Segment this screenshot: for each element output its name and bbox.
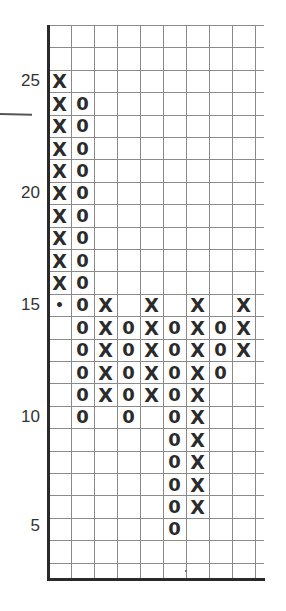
- o-mark: 0: [71, 406, 94, 428]
- y-axis: [47, 25, 50, 581]
- x-mark: X: [94, 339, 117, 361]
- o-mark: 0: [209, 339, 232, 361]
- o-mark: 0: [71, 294, 94, 316]
- x-mark: X: [140, 362, 163, 384]
- grid-hline: [48, 473, 264, 474]
- o-mark: 0: [71, 250, 94, 272]
- o-mark: 0: [163, 384, 186, 406]
- x-mark: X: [186, 317, 209, 339]
- o-mark: 0: [71, 182, 94, 204]
- x-mark: X: [186, 406, 209, 428]
- x-mark: X: [232, 339, 255, 361]
- o-mark: 0: [117, 362, 140, 384]
- o-mark: 0: [71, 138, 94, 160]
- grid-hline: [48, 47, 264, 48]
- x-mark: X: [186, 451, 209, 473]
- x-mark: X: [94, 384, 117, 406]
- x-mark: X: [48, 115, 71, 137]
- x-mark: X: [232, 294, 255, 316]
- o-mark: 0: [117, 317, 140, 339]
- x-mark: X: [48, 205, 71, 227]
- o-mark: 0: [71, 362, 94, 384]
- x-mark: X: [94, 294, 117, 316]
- x-axis: [47, 578, 265, 581]
- x-mark: X: [48, 272, 71, 294]
- grid-hline: [48, 428, 264, 429]
- o-mark: 0: [163, 317, 186, 339]
- o-mark: 0: [163, 518, 186, 540]
- y-label-10: 10: [0, 407, 40, 427]
- o-mark: 0: [163, 496, 186, 518]
- y-label-15: 15: [0, 295, 40, 315]
- o-mark: 0: [209, 362, 232, 384]
- o-mark: 0: [163, 339, 186, 361]
- speck-mark: [185, 570, 187, 572]
- y-label-5: 5: [0, 516, 40, 536]
- o-mark: 0: [117, 384, 140, 406]
- x-mark: X: [186, 339, 209, 361]
- o-mark: 0: [163, 406, 186, 428]
- grid-hline: [48, 495, 264, 496]
- x-mark: X: [186, 384, 209, 406]
- grid-hline: [48, 518, 264, 519]
- o-mark: 0: [71, 205, 94, 227]
- x-mark: X: [140, 317, 163, 339]
- x-mark: X: [186, 474, 209, 496]
- o-mark: 0: [71, 227, 94, 249]
- y-label-25: 25: [0, 71, 40, 91]
- o-mark: 0: [71, 115, 94, 137]
- x-mark: X: [140, 339, 163, 361]
- x-mark: X: [186, 496, 209, 518]
- x-mark: X: [48, 93, 71, 115]
- o-mark: 0: [71, 160, 94, 182]
- y-label-20: 20: [0, 183, 40, 203]
- o-mark: 0: [71, 317, 94, 339]
- x-mark: X: [140, 294, 163, 316]
- o-mark: 0: [71, 93, 94, 115]
- o-mark: 0: [71, 339, 94, 361]
- x-mark: X: [140, 384, 163, 406]
- grid-hline: [48, 540, 264, 541]
- x-mark: X: [48, 250, 71, 272]
- x-mark: X: [94, 362, 117, 384]
- o-mark: 0: [163, 451, 186, 473]
- x-mark: X: [48, 138, 71, 160]
- x-mark: X: [94, 317, 117, 339]
- x-mark: X: [232, 317, 255, 339]
- grid-hline: [48, 451, 264, 452]
- x-mark: X: [48, 160, 71, 182]
- x-mark: X: [48, 182, 71, 204]
- annotation-line: [0, 113, 32, 116]
- grid-hline: [48, 70, 264, 71]
- x-mark: X: [186, 294, 209, 316]
- point-and-figure-chart: 25 20 15 10 5 XXXXXXXXXX000000000000000X…: [0, 0, 286, 611]
- grid-hline: [48, 25, 264, 26]
- x-mark: X: [186, 429, 209, 451]
- o-mark: 0: [163, 362, 186, 384]
- o-mark: 0: [71, 384, 94, 406]
- x-mark: X: [48, 70, 71, 92]
- o-mark: 0: [163, 474, 186, 496]
- dot-marker: •: [48, 294, 71, 316]
- o-mark: 0: [117, 339, 140, 361]
- grid-hline: [48, 563, 264, 564]
- o-mark: 0: [117, 406, 140, 428]
- o-mark: 0: [209, 317, 232, 339]
- x-mark: X: [186, 362, 209, 384]
- x-mark: X: [48, 227, 71, 249]
- o-mark: 0: [163, 429, 186, 451]
- o-mark: 0: [71, 272, 94, 294]
